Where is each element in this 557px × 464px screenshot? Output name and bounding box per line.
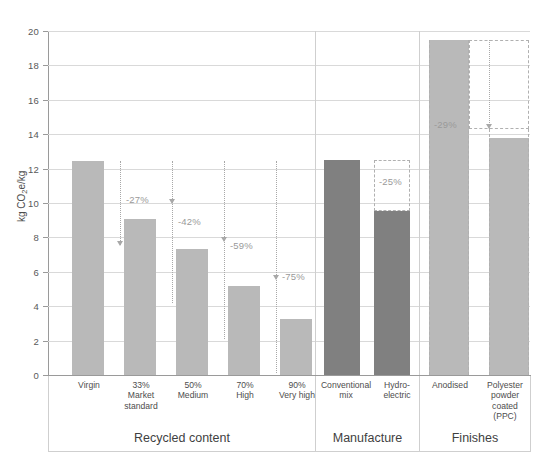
tick-label-20: 20 xyxy=(28,26,39,37)
tick-mark-6 xyxy=(43,272,48,273)
ghost-box-polyester xyxy=(469,40,529,129)
bar-90-very-high xyxy=(280,319,312,375)
y-axis-title-part2: e/kg xyxy=(16,171,27,190)
tick-label-8: 8 xyxy=(34,232,39,243)
category-label-virgin: Virgin xyxy=(63,380,115,390)
category-label-90-line2: Very high xyxy=(271,390,323,400)
bar-33-market-standard xyxy=(124,219,156,376)
category-label-conventional-line2: mix xyxy=(318,390,374,400)
tick-mark-12 xyxy=(43,169,48,170)
tick-mark-10 xyxy=(43,203,48,204)
category-label-polyester-line4: (PPC) xyxy=(479,411,531,421)
category-label-band: Virgin 33% Market standard 50% Medium 70… xyxy=(48,376,531,422)
tick-mark-14 xyxy=(43,134,48,135)
tick-label-10: 10 xyxy=(28,198,39,209)
group-label-recycled-content: Recycled content xyxy=(49,431,315,445)
leader-arrow-27 xyxy=(117,241,123,246)
category-label-70-line2: High xyxy=(219,390,271,400)
tick-mark-20 xyxy=(43,31,48,32)
tick-mark-16 xyxy=(43,100,48,101)
group-label-finishes: Finishes xyxy=(420,431,530,445)
category-label-anodised: Anodised xyxy=(423,380,477,390)
leader-arrow-75 xyxy=(273,275,279,280)
bar-chart: kg CO2e/kg 20 18 16 14 12 10 xyxy=(0,0,557,464)
gridline-20: 20 xyxy=(48,31,530,32)
category-label-polyester-line3: coated xyxy=(479,401,531,411)
category-label-50-medium: 50% Medium xyxy=(167,380,219,401)
ghost-outline-polyester xyxy=(489,129,529,375)
category-label-hydro-electric: Hydro- electric xyxy=(374,380,420,401)
leader-arrow-59 xyxy=(221,237,227,242)
category-label-70-line1: 70% xyxy=(219,380,271,390)
annotation-minus-27: -27% xyxy=(126,194,149,205)
tick-label-18: 18 xyxy=(28,60,39,71)
bar-50-medium xyxy=(176,249,208,375)
tick-label-14: 14 xyxy=(28,129,39,140)
category-label-conventional-mix: Conventional mix xyxy=(318,380,374,401)
category-label-50-line1: 50% xyxy=(167,380,219,390)
plot-area: 20 18 16 14 12 10 8 6 xyxy=(48,31,530,375)
annotation-minus-25: -25% xyxy=(379,176,402,187)
annotation-minus-42: -42% xyxy=(178,216,201,227)
tick-mark-8 xyxy=(43,237,48,238)
group-separator-1 xyxy=(315,31,316,375)
category-label-polyester-line2: powder xyxy=(479,390,531,400)
category-label-33-line2: Market xyxy=(115,390,167,400)
category-label-50-line2: Medium xyxy=(167,390,219,400)
ghost-outline-anodised xyxy=(429,40,469,375)
y-axis-title: kg CO2e/kg xyxy=(16,171,27,222)
leader-line-42 xyxy=(172,161,173,303)
category-label-90-line1: 90% xyxy=(271,380,323,390)
category-label-virgin-line1: Virgin xyxy=(63,380,115,390)
category-label-hydro-line2: electric xyxy=(374,390,420,400)
tick-mark-2 xyxy=(43,341,48,342)
category-label-33-market-standard: 33% Market standard xyxy=(115,380,167,411)
tick-label-16: 16 xyxy=(28,94,39,105)
tick-label-12: 12 xyxy=(28,163,39,174)
tick-mark-18 xyxy=(43,65,48,66)
category-label-polyester-powder-coated: Polyester powder coated (PPC) xyxy=(479,380,531,422)
leader-line-27 xyxy=(120,161,121,246)
annotation-minus-59: -59% xyxy=(230,240,253,251)
category-label-90-very-high: 90% Very high xyxy=(271,380,323,401)
annotation-minus-75: -75% xyxy=(282,271,305,282)
bar-conventional-mix xyxy=(324,160,360,375)
group-label-manufacture: Manufacture xyxy=(316,431,419,445)
y-axis-title-subscript: 2 xyxy=(20,189,29,193)
y-axis-title-part1: kg CO xyxy=(16,194,27,222)
tick-mark-4 xyxy=(43,306,48,307)
category-label-33-line3: standard xyxy=(115,401,167,411)
category-label-conventional-line1: Conventional xyxy=(318,380,374,390)
bar-virgin xyxy=(72,161,104,375)
category-label-polyester-line1: Polyester xyxy=(479,380,531,390)
tick-label-4: 4 xyxy=(34,301,39,312)
leader-line-29 xyxy=(489,40,490,129)
tick-label-0: 0 xyxy=(34,370,39,381)
category-label-anodised-line1: Anodised xyxy=(423,380,477,390)
leader-line-75 xyxy=(276,161,277,374)
leader-line-59 xyxy=(224,161,225,339)
leader-arrow-42 xyxy=(169,199,175,204)
tick-label-2: 2 xyxy=(34,335,39,346)
bar-70-high xyxy=(228,286,260,375)
bar-hydro-electric xyxy=(374,211,410,375)
group-separator-2 xyxy=(419,31,420,375)
category-label-33-line1: 33% xyxy=(115,380,167,390)
tick-label-6: 6 xyxy=(34,266,39,277)
category-label-70-high: 70% High xyxy=(219,380,271,401)
category-label-hydro-line1: Hydro- xyxy=(374,380,420,390)
